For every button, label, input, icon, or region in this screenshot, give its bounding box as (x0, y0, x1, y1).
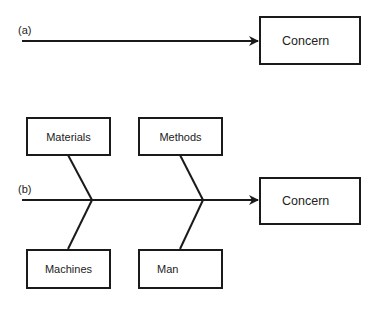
category-box-man: Man (138, 249, 223, 289)
branch-man (180, 200, 203, 249)
category-box-methods: Methods (138, 117, 223, 156)
branch-materials (68, 155, 92, 200)
category-box-materials: Materials (26, 117, 111, 156)
concern-label-b: Concern (282, 194, 329, 208)
branch-machines (68, 200, 92, 249)
category-box-machines: Machines (26, 249, 111, 289)
concern-box-a: Concern (259, 16, 361, 65)
category-label-materials: Materials (46, 131, 91, 143)
concern-label-a: Concern (282, 34, 329, 48)
label-b: (b) (18, 183, 31, 195)
category-label-machines: Machines (45, 263, 92, 275)
branch-methods (180, 155, 203, 200)
label-a: (a) (18, 24, 31, 36)
category-label-methods: Methods (159, 131, 201, 143)
concern-box-b: Concern (259, 177, 361, 225)
category-label-man: Man (157, 263, 178, 275)
